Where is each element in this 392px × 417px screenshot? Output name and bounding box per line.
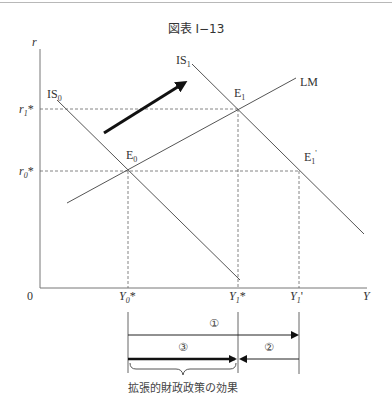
shift-arrow-icon <box>104 83 184 133</box>
lm-curve <box>67 78 296 203</box>
effect-decomposition: ① ③ ② 拡張的財政政策の効果 <box>128 312 299 395</box>
brace-caption: 拡張的財政政策の効果 <box>128 381 238 395</box>
e1-prime-label: E1' <box>304 149 317 166</box>
arrow-3-label: ③ <box>178 341 188 354</box>
guide-lines <box>40 109 299 288</box>
y0-star-label: Y0* <box>119 289 136 305</box>
x-axis-label: Y <box>363 289 371 303</box>
arrow-1-label: ① <box>209 317 219 330</box>
is0-curve <box>57 100 240 280</box>
y1-prime-label: Y1' <box>290 289 303 305</box>
e0-label: E0 <box>126 148 137 164</box>
r1-star-label: r1* <box>19 102 34 118</box>
is1-curve <box>192 64 364 234</box>
is0-label: IS0 <box>47 87 62 103</box>
y1-star-label: Y1* <box>229 289 246 305</box>
r0-star-label: r0* <box>19 164 34 180</box>
brace-icon <box>130 363 236 375</box>
lm-label: LM <box>300 75 318 89</box>
is-lm-diagram: 図表 I−13 r Y 0 IS0 IS1 LM E0 E1 E1' r1* r… <box>0 0 392 417</box>
is1-label: IS1 <box>176 53 191 69</box>
y-axis-label: r <box>32 35 37 49</box>
e1-label: E1 <box>234 86 245 102</box>
origin-label: 0 <box>27 289 33 303</box>
figure-title: 図表 I−13 <box>168 22 225 36</box>
arrow-2-label: ② <box>264 341 274 354</box>
